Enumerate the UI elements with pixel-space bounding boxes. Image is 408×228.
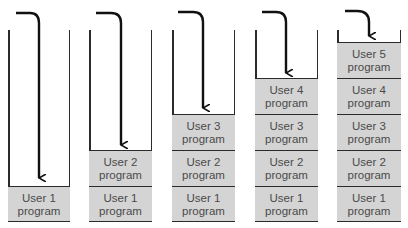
arrow-down-icon (178, 12, 203, 108)
load-arrows (0, 0, 408, 228)
arrow-down-icon (262, 12, 286, 73)
arrow-down-icon (16, 13, 39, 178)
arrow-down-icon (345, 11, 369, 36)
arrow-down-icon (96, 13, 121, 145)
